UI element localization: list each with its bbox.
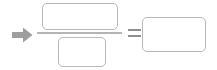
equation-canvas <box>0 0 217 70</box>
denominator-input-box[interactable] <box>58 37 106 67</box>
numerator-input-box[interactable] <box>42 3 118 30</box>
fraction-bar <box>37 32 122 34</box>
equals-bar-top <box>128 29 141 31</box>
equals-bar-bottom <box>128 35 141 37</box>
result-input-box[interactable] <box>142 17 206 52</box>
arrow-right-icon <box>12 27 33 43</box>
equals-icon <box>128 29 141 37</box>
